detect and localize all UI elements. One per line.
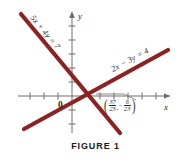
y-sign: − [118, 102, 123, 110]
x-denominator: 23 [109, 105, 116, 112]
line-5x-plus-4y-equals-7 [21, 14, 120, 133]
figure-container: x y 0 5x + 4y = 7 2x − 3y = 4 ( 37 23 , … [0, 0, 191, 162]
origin-label: 0 [58, 100, 63, 110]
x-coordinate-fraction: 37 23 [109, 99, 116, 113]
y-coordinate-fraction: 6 23 [124, 99, 131, 113]
y-denominator: 23 [124, 105, 131, 112]
intersection-coordinate-label: ( 37 23 , − 6 23 ) [103, 99, 137, 113]
line-2x-minus-3y-equals-4 [24, 50, 168, 129]
x-axis [18, 93, 170, 100]
x-axis-label: x [163, 102, 168, 112]
y-axis-label: y [77, 11, 82, 21]
figure-caption: FIGURE 1 [0, 141, 191, 151]
graph-canvas: x y 0 5x + 4y = 7 2x − 3y = 4 [0, 0, 191, 162]
